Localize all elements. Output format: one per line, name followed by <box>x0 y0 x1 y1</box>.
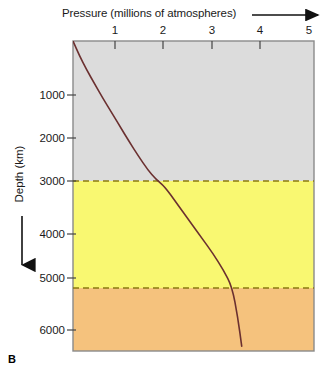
layer-region-outer-core <box>73 181 314 288</box>
figure-panel-b: Pressure (millions of atmospheres) Depth… <box>0 0 328 371</box>
layer-region-inner-core <box>73 288 314 351</box>
layer-region-mantle <box>73 41 314 181</box>
plot-svg <box>0 0 328 371</box>
